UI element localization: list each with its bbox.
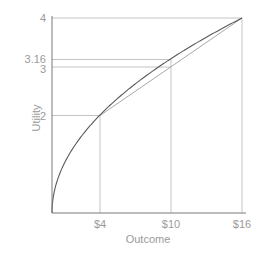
y-axis-label: Utility	[30, 104, 42, 131]
utility-chart: 4 3.16 3 2 $4 $10 $16 Outcome Utility	[0, 0, 266, 257]
x-axis-label: Outcome	[126, 233, 171, 245]
x-tick-4: $4	[94, 218, 106, 230]
x-tick-16: $16	[233, 218, 251, 230]
y-tick-4: 4	[40, 12, 46, 24]
reference-lines	[52, 18, 242, 213]
y-tick-3: 3	[40, 63, 46, 75]
utility-curve	[52, 116, 100, 214]
x-tick-10: $10	[162, 218, 180, 230]
